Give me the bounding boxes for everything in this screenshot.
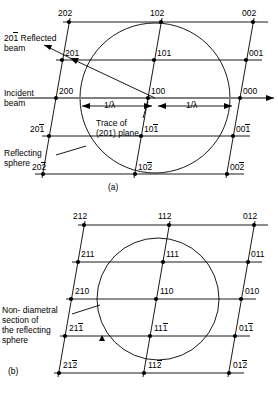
reflected-beam-arrow-a <box>70 58 79 64</box>
non-diametral-line3: the reflecting <box>2 325 51 335</box>
node-label-b-2-2: 010 <box>245 287 259 297</box>
radius-left-label: 1/λ <box>104 100 115 110</box>
node-label-a-1-1: 101 <box>157 49 171 59</box>
node-label-a-2-0: 200 <box>59 87 73 97</box>
radius-right-label: 1/λ <box>186 100 197 110</box>
trace-line2: (201) plane <box>96 128 139 138</box>
figure-container: 202 102 002 201 101 001 200 100 000 201 … <box>0 0 278 403</box>
reflecting-sphere-line2: sphere <box>4 158 30 168</box>
non-diametral-line1: Non- diametral <box>2 305 58 315</box>
node-label-b-4-0: 212 <box>63 361 77 371</box>
overbar-digit: 2 <box>72 361 77 371</box>
incident-beam-arrow-a <box>266 95 274 101</box>
node-label-b-0-1: 112 <box>158 212 172 222</box>
overbar-digit: 2 <box>147 163 152 173</box>
node-label-b-3-0: 211 <box>69 324 83 334</box>
node-label-b-1-2: 011 <box>251 250 265 260</box>
node-label-a-4-2: 002 <box>230 163 244 173</box>
overbar-digit: 1 <box>245 125 250 135</box>
trace-annotation: Trace of (201) plane <box>96 118 139 138</box>
radius-left-arrow-end <box>144 103 152 109</box>
overbar-digit: 2 <box>157 361 162 371</box>
incident-beam-line1: Incident <box>4 88 34 98</box>
reflecting-sphere-line1: Reflecting <box>4 148 42 158</box>
overbar-digit: 1 <box>153 125 158 135</box>
node-label-b-1-0: 211 <box>81 250 95 260</box>
radius-right-arrow-end <box>224 103 232 109</box>
overbar-digit: 1 <box>13 33 18 43</box>
node-label-b-3-2: 011 <box>239 324 253 334</box>
node-label-a-0-1: 102 <box>150 9 164 19</box>
reflected-beam-annotation: 201 Reflected beam <box>4 33 56 53</box>
node-label-a-0-2: 002 <box>242 9 256 19</box>
panel-caption-b: (b) <box>8 366 18 376</box>
panel-caption-a: (a) <box>108 182 118 192</box>
overbar-digit: 1 <box>78 324 83 334</box>
radius-left-arrow-start <box>82 103 90 109</box>
reflecting-sphere-annotation: Reflecting sphere <box>4 148 42 168</box>
node-label-a-3-0: 201 <box>30 125 44 135</box>
overbar-digit: 1 <box>248 324 253 334</box>
node-label-b-4-2: 012 <box>233 361 247 371</box>
node-label-a-0-0: 202 <box>58 9 72 19</box>
reflected-beam-line2: beam <box>4 43 25 53</box>
node-label-b-2-0: 210 <box>75 287 89 297</box>
reflected-beam-text: Reflected <box>18 33 56 43</box>
overbar-digit: 2 <box>242 361 247 371</box>
node-label-a-2-1: 100 <box>151 87 165 97</box>
overbar-digit: 1 <box>163 324 168 334</box>
non-diametral-line2: section of <box>2 315 38 325</box>
non-diametral-annotation: Non- diametral section of the reflecting… <box>2 305 58 345</box>
node-label-b-1-1: 111 <box>166 250 179 260</box>
node-label-b-0-2: 012 <box>243 212 257 222</box>
node-label-a-3-2: 001 <box>236 125 250 135</box>
trace-line1: Trace of <box>96 118 127 128</box>
node-label-a-4-1: 102 <box>138 163 152 173</box>
non-diametral-line4: sphere <box>2 335 28 345</box>
node-label-a-1-0: 201 <box>65 49 79 59</box>
node-label-b-2-1: 110 <box>160 287 174 297</box>
node-label-b-0-0: 212 <box>73 212 87 222</box>
node-label-a-3-1: 101 <box>144 125 158 135</box>
incident-beam-annotation: Incident beam <box>4 88 34 108</box>
node-label-a-1-2: 001 <box>249 49 263 59</box>
radius-right-arrow-start <box>158 103 166 109</box>
node-label-a-2-2: 000 <box>243 87 257 97</box>
trace-leader-a <box>143 101 148 118</box>
overbar-digit: 2 <box>41 163 46 173</box>
reflecting-sphere-leader-a <box>56 146 86 155</box>
overbar-digit: 2 <box>239 163 244 173</box>
node-label-b-4-1: 112 <box>148 361 162 371</box>
overbar-digit: 1 <box>39 125 44 135</box>
non-diametral-leader-b <box>72 305 100 314</box>
incident-beam-line2: beam <box>4 98 25 108</box>
node-label-b-3-1: 111 <box>154 324 168 334</box>
